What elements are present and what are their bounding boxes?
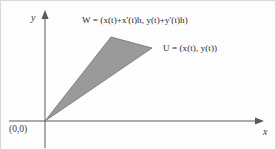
x-axis-label: x — [263, 127, 267, 137]
vector-diagram-figure: W = (x(t)+x'(t)h, y(t)+y'(t)h) U = (x(t)… — [0, 0, 276, 150]
origin-label: (0,0) — [9, 125, 27, 135]
y-axis-label: y — [31, 13, 35, 23]
u-vector-label: U = (x(t), y(t)) — [163, 44, 217, 53]
w-vector-label: W = (x(t)+x'(t)h, y(t)+y'(t)h) — [82, 16, 188, 25]
y-axis-arrow-icon — [41, 10, 48, 19]
vector-wedge-triangle — [45, 37, 152, 121]
x-axis-arrow-icon — [255, 118, 264, 125]
